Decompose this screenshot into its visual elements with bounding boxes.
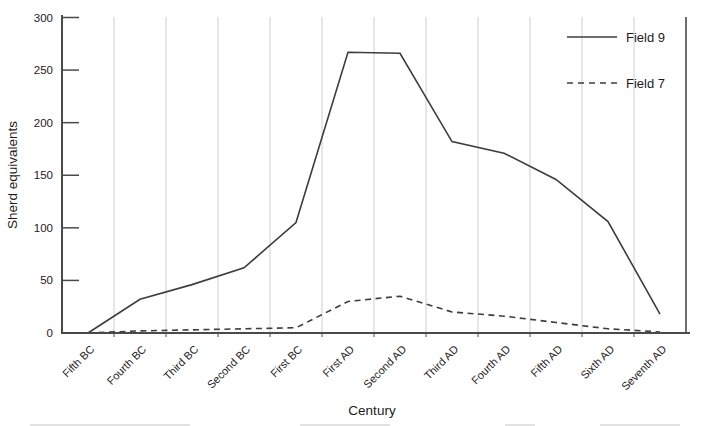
y-tick-label: 150 (34, 169, 53, 181)
x-tick-label: Fourth AD (469, 343, 513, 387)
y-tick-label: 100 (34, 222, 53, 234)
y-tick-label: 0 (47, 327, 53, 339)
x-tick-label: Sixth AD (578, 343, 616, 381)
line-chart-canvas: 050100150200250300Fifth BCFourth BCThird… (0, 0, 705, 426)
x-tick-label: Second BC (205, 343, 253, 391)
legend-label-field-9: Field 9 (626, 30, 665, 45)
y-tick-label: 250 (34, 64, 53, 76)
x-tick-label: First AD (320, 343, 356, 379)
x-tick-label: Fifth BC (60, 343, 97, 380)
x-tick-label: Second AD (361, 343, 408, 390)
x-tick-label: Fifth AD (528, 343, 564, 379)
x-tick-label: First BC (268, 343, 305, 380)
y-axis-title: Sherd equivalents (5, 121, 20, 229)
x-tick-label: Third BC (161, 343, 200, 382)
y-tick-label: 300 (34, 12, 53, 24)
x-tick-label: Third AD (422, 343, 461, 382)
legend-label-field-7: Field 7 (626, 76, 665, 91)
y-tick-label: 200 (34, 117, 53, 129)
sherd-equivalents-chart: 050100150200250300Fifth BCFourth BCThird… (0, 0, 705, 426)
y-tick-label: 50 (40, 274, 53, 286)
x-tick-label: Fourth BC (104, 343, 148, 387)
x-tick-label: Seventh AD (619, 343, 669, 393)
x-axis-title: Century (348, 403, 396, 418)
